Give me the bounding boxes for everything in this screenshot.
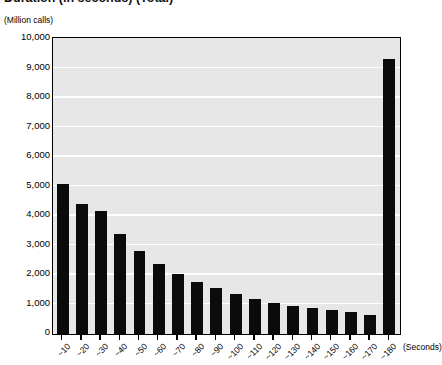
x-axis-tick-mark — [176, 335, 178, 340]
bar-series — [53, 38, 400, 334]
y-axis-tick-label: 5,000 — [2, 180, 50, 190]
y-axis-tick-label: 6,000 — [2, 150, 50, 160]
bar — [249, 299, 261, 334]
x-axis-tick-mark — [80, 335, 82, 340]
x-axis-tick-mark — [253, 335, 255, 340]
x-axis-tick-mark — [330, 335, 332, 340]
x-axis-tick-mark — [61, 335, 63, 340]
bar — [172, 274, 184, 334]
y-axis-tick-labels: 10,0009,0008,0007,0006,0005,0004,0003,00… — [0, 0, 50, 365]
bar — [364, 315, 376, 334]
bar — [268, 303, 280, 334]
x-axis-tick-mark — [234, 335, 236, 340]
x-axis-tick-mark — [311, 335, 313, 340]
bar — [345, 312, 357, 334]
x-axis-tick-labels: ~10~20~30~40~50~60~70~80~90~100~110~120~… — [52, 335, 401, 365]
bar — [153, 264, 165, 334]
bar — [95, 211, 107, 334]
bar — [114, 234, 126, 334]
x-axis-tick-mark — [292, 335, 294, 340]
bar — [307, 308, 319, 334]
y-axis-tick-label: 9,000 — [2, 62, 50, 72]
x-axis-tick-mark — [157, 335, 159, 340]
bar — [383, 59, 395, 334]
x-axis-tick-mark — [195, 335, 197, 340]
y-axis-tick-label: 0 — [2, 327, 50, 337]
bar — [57, 184, 69, 334]
x-axis-tick-mark — [368, 335, 370, 340]
x-axis-tick-mark — [388, 335, 390, 340]
x-axis-tick-mark — [99, 335, 101, 340]
y-axis-tick-label: 3,000 — [2, 239, 50, 249]
y-axis-tick-label: 2,000 — [2, 268, 50, 278]
x-axis-tick-mark — [272, 335, 274, 340]
chart-title-clipped: Duration (in seconds) (Total) — [4, 0, 424, 9]
bar — [210, 288, 222, 334]
x-axis-tick-mark — [119, 335, 121, 340]
x-axis-tick-mark — [349, 335, 351, 340]
bar — [287, 306, 299, 334]
bar — [191, 282, 203, 335]
bar — [76, 204, 88, 334]
y-axis-tick-label: 10,000 — [2, 32, 50, 42]
y-axis-tick-label: 1,000 — [2, 298, 50, 308]
x-axis-tick-mark — [215, 335, 217, 340]
bar — [326, 310, 338, 334]
y-axis-tick-label: 7,000 — [2, 121, 50, 131]
x-axis-tick-mark — [138, 335, 140, 340]
y-axis-tick-label: 8,000 — [2, 91, 50, 101]
plot-area — [52, 37, 401, 335]
x-axis-title: (Seconds) — [403, 342, 442, 352]
y-axis-tick-label: 4,000 — [2, 209, 50, 219]
bar — [134, 251, 146, 334]
bar — [230, 294, 242, 334]
